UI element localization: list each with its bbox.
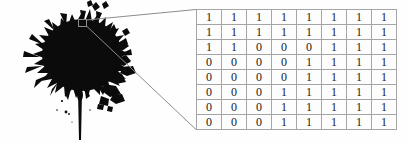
matrix-cell: 1 xyxy=(347,25,372,40)
matrix-cell: 1 xyxy=(347,85,372,100)
matrix-cell: 1 xyxy=(372,25,397,40)
matrix-cell: 1 xyxy=(322,115,347,130)
matrix-cell: 1 xyxy=(322,10,347,25)
matrix-cell: 0 xyxy=(297,40,322,55)
matrix-cell: 1 xyxy=(372,10,397,25)
matrix-cell: 0 xyxy=(197,115,222,130)
matrix-cell: 1 xyxy=(322,55,347,70)
matrix-cell: 0 xyxy=(247,40,272,55)
matrix-cell: 0 xyxy=(222,55,247,70)
blot-speckles xyxy=(56,100,91,123)
matrix-row: 11111111 xyxy=(197,25,397,40)
matrix-cell: 0 xyxy=(222,70,247,85)
matrix-cell: 1 xyxy=(247,25,272,40)
blot-drip-head xyxy=(77,89,83,101)
matrix-cell: 1 xyxy=(272,85,297,100)
matrix-cell: 0 xyxy=(247,100,272,115)
matrix-cell: 0 xyxy=(247,115,272,130)
matrix-row: 00011111 xyxy=(197,115,397,130)
matrix-cell: 1 xyxy=(222,25,247,40)
matrix-cell: 0 xyxy=(222,85,247,100)
matrix-cell: 1 xyxy=(272,10,297,25)
pixel-value-matrix: 1111111111111111110001110000111100001111… xyxy=(196,9,397,130)
matrix-row: 11111111 xyxy=(197,10,397,25)
matrix-cell: 1 xyxy=(197,25,222,40)
matrix-cell: 0 xyxy=(247,85,272,100)
matrix-cell: 0 xyxy=(272,40,297,55)
matrix-cell: 1 xyxy=(322,85,347,100)
matrix-cell: 1 xyxy=(372,100,397,115)
matrix-row: 00011111 xyxy=(197,100,397,115)
matrix-cell: 0 xyxy=(247,55,272,70)
matrix-cell: 1 xyxy=(372,85,397,100)
matrix-cell: 1 xyxy=(297,10,322,25)
matrix-cell: 0 xyxy=(247,70,272,85)
matrix-cell: 1 xyxy=(347,55,372,70)
matrix-row: 11000111 xyxy=(197,40,397,55)
matrix-cell: 0 xyxy=(222,115,247,130)
matrix-cell: 1 xyxy=(322,70,347,85)
matrix-cell: 1 xyxy=(347,100,372,115)
matrix-cell: 1 xyxy=(222,40,247,55)
matrix-row: 00001111 xyxy=(197,55,397,70)
matrix-cell: 1 xyxy=(322,100,347,115)
matrix-cell: 1 xyxy=(347,70,372,85)
matrix-cell: 1 xyxy=(347,10,372,25)
matrix-cell: 1 xyxy=(272,25,297,40)
matrix-cell: 1 xyxy=(222,10,247,25)
matrix-cell: 1 xyxy=(297,55,322,70)
matrix-cell: 0 xyxy=(272,55,297,70)
ink-blot-image xyxy=(0,0,196,143)
matrix-cell: 0 xyxy=(197,55,222,70)
matrix-cell: 1 xyxy=(272,115,297,130)
matrix-cell: 1 xyxy=(197,40,222,55)
matrix-cell: 1 xyxy=(322,25,347,40)
matrix-cell: 1 xyxy=(347,115,372,130)
matrix-cell: 1 xyxy=(272,100,297,115)
matrix-body: 1111111111111111110001110000111100001111… xyxy=(197,10,397,130)
ink-blot-pixel-figure: 1111111111111111110001110000111100001111… xyxy=(0,0,408,143)
matrix-cell: 1 xyxy=(372,40,397,55)
matrix-cell: 1 xyxy=(347,40,372,55)
matrix-cell: 1 xyxy=(372,115,397,130)
matrix-cell: 0 xyxy=(197,70,222,85)
matrix-row: 00011111 xyxy=(197,85,397,100)
matrix-cell: 1 xyxy=(297,25,322,40)
matrix-cell: 1 xyxy=(297,100,322,115)
matrix-cell: 1 xyxy=(297,70,322,85)
matrix-cell: 0 xyxy=(197,85,222,100)
matrix-cell: 1 xyxy=(372,70,397,85)
matrix-cell: 1 xyxy=(322,40,347,55)
matrix-cell: 1 xyxy=(297,85,322,100)
matrix-cell: 0 xyxy=(222,100,247,115)
matrix-cell: 1 xyxy=(297,115,322,130)
matrix-cell: 1 xyxy=(372,55,397,70)
matrix-row: 00001111 xyxy=(197,70,397,85)
matrix-cell: 1 xyxy=(247,10,272,25)
ink-blot-body xyxy=(23,0,136,140)
matrix-cell: 1 xyxy=(197,10,222,25)
ink-blot-graphic xyxy=(0,0,196,143)
matrix-cell: 0 xyxy=(272,70,297,85)
matrix-cell: 0 xyxy=(197,100,222,115)
